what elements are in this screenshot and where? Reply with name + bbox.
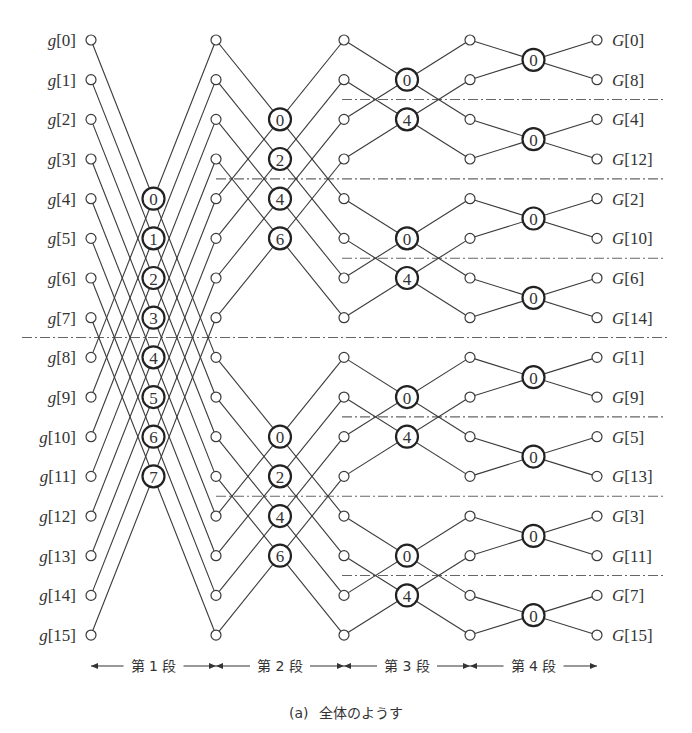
node-icon xyxy=(465,432,475,442)
twiddle-circle: 0 xyxy=(269,426,291,448)
output-label: G[4] xyxy=(612,110,644,129)
node-icon xyxy=(592,35,602,45)
node-icon xyxy=(592,432,602,442)
twiddle-index: 0 xyxy=(529,369,538,388)
output-label: G[7] xyxy=(612,586,644,605)
node-icon xyxy=(339,313,349,323)
node-icon xyxy=(339,194,349,204)
output-label: G[15] xyxy=(612,626,653,645)
twiddle-index: 0 xyxy=(403,547,412,566)
twiddle-index: 2 xyxy=(276,151,285,170)
output-label: G[13] xyxy=(612,467,653,486)
node-icon xyxy=(465,352,475,362)
node-icon xyxy=(592,392,602,402)
arrowhead-right-icon xyxy=(209,663,216,669)
twiddle-index: 6 xyxy=(149,428,158,447)
twiddle-index: 0 xyxy=(529,289,538,308)
twiddle-index: 0 xyxy=(276,428,285,447)
arrowhead-left-icon xyxy=(216,663,223,669)
node-icon xyxy=(211,273,221,283)
input-label: g[8] xyxy=(48,348,76,367)
twiddle-circle: 0 xyxy=(269,108,291,130)
output-label: G[14] xyxy=(612,309,653,328)
twiddle-circle: 2 xyxy=(143,267,165,289)
node-icon xyxy=(86,75,96,85)
node-icon xyxy=(592,75,602,85)
twiddle-index: 4 xyxy=(276,190,285,209)
arrowhead-right-icon xyxy=(337,663,344,669)
output-label: G[8] xyxy=(612,71,644,90)
twiddle-index: 0 xyxy=(529,607,538,626)
node-icon xyxy=(86,432,96,442)
node-icon xyxy=(86,471,96,481)
twiddle-circle: 4 xyxy=(269,188,291,210)
node-icon xyxy=(339,630,349,640)
twiddle-circle: 0 xyxy=(143,188,165,210)
node-icon xyxy=(339,432,349,442)
input-label: g[10] xyxy=(39,428,76,447)
twiddle-index: 2 xyxy=(149,270,158,289)
output-label: G[12] xyxy=(612,150,653,169)
block-separators xyxy=(22,100,668,576)
node-icon xyxy=(592,154,602,164)
node-icon xyxy=(211,233,221,243)
twiddle-index: 0 xyxy=(529,131,538,150)
node-icon xyxy=(211,590,221,600)
twiddle-circle: 0 xyxy=(523,208,545,230)
input-label: g[5] xyxy=(48,229,76,248)
twiddle-circle: 6 xyxy=(269,227,291,249)
node-icon xyxy=(211,114,221,124)
twiddle-circle: 4 xyxy=(396,267,418,289)
output-label: G[9] xyxy=(612,388,644,407)
input-label: g[1] xyxy=(48,71,76,90)
arrowhead-left-icon xyxy=(470,663,477,669)
node-icon xyxy=(465,551,475,561)
node-icon xyxy=(592,471,602,481)
node-icon xyxy=(339,154,349,164)
node-icon xyxy=(211,630,221,640)
node-icon xyxy=(86,551,96,561)
twiddle-circle: 1 xyxy=(143,227,165,249)
twiddle-circle: 0 xyxy=(523,446,545,468)
node-icon xyxy=(465,630,475,640)
input-label: g[9] xyxy=(48,388,76,407)
figure-caption: (a) 全体のようす xyxy=(289,705,403,721)
twiddle-circle: 2 xyxy=(269,148,291,170)
twiddle-circle: 5 xyxy=(143,386,165,408)
input-label: g[12] xyxy=(39,507,76,526)
twiddle-index: 7 xyxy=(149,468,158,487)
node-icon xyxy=(211,352,221,362)
input-label: g[14] xyxy=(39,586,76,605)
twiddle-circle: 4 xyxy=(143,346,165,368)
twiddle-circle: 0 xyxy=(396,386,418,408)
twiddle-index: 0 xyxy=(403,230,412,249)
node-icon xyxy=(465,511,475,521)
output-label: G[0] xyxy=(612,31,644,50)
node-icon xyxy=(592,551,602,561)
twiddle-index: 4 xyxy=(276,508,285,527)
stage-label: 第 1 段 xyxy=(131,658,177,674)
node-icon xyxy=(211,432,221,442)
arrowhead-right-icon xyxy=(463,663,470,669)
node-icon xyxy=(211,551,221,561)
node-icon xyxy=(465,313,475,323)
node-icon xyxy=(86,35,96,45)
twiddle-circle: 0 xyxy=(523,525,545,547)
node-icon xyxy=(86,630,96,640)
input-label: g[2] xyxy=(48,110,76,129)
twiddle-circle: 0 xyxy=(523,287,545,309)
node-icon xyxy=(86,590,96,600)
node-icon xyxy=(339,273,349,283)
input-label: g[15] xyxy=(39,626,76,645)
caption-text: 全体のようす xyxy=(319,705,403,721)
node-icon xyxy=(339,114,349,124)
node-icon xyxy=(592,630,602,640)
node-icon xyxy=(465,114,475,124)
node-icon xyxy=(211,154,221,164)
node-icon xyxy=(465,233,475,243)
output-label: G[6] xyxy=(612,269,644,288)
twiddle-index: 5 xyxy=(149,389,158,408)
twiddle-index: 4 xyxy=(403,587,412,606)
node-icon xyxy=(592,590,602,600)
arrowhead-right-icon xyxy=(590,663,597,669)
